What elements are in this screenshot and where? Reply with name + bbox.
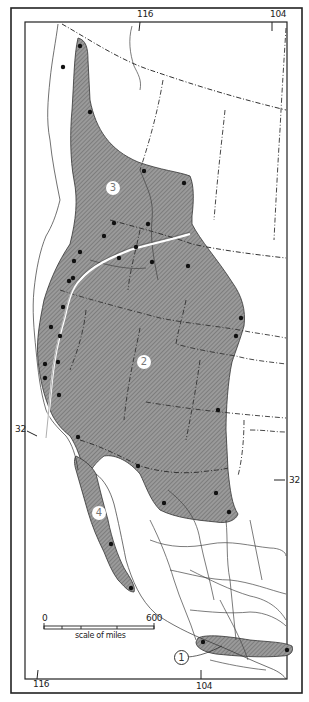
locality-dot <box>67 279 71 283</box>
locality-dot <box>72 259 76 263</box>
scale-end-label: 600 <box>146 614 162 623</box>
range-label-3: 3 <box>106 181 120 195</box>
locality-dot <box>227 510 231 514</box>
latitude-label: 32 <box>15 425 26 434</box>
locality-dot <box>71 276 75 280</box>
locality-dot <box>112 221 116 225</box>
locality-dot <box>43 362 47 366</box>
locality-dot <box>186 264 190 268</box>
locality-dot <box>109 542 113 546</box>
locality-dot <box>57 393 61 397</box>
locality-dot <box>88 110 92 114</box>
locality-dot <box>182 181 186 185</box>
locality-dot <box>102 234 106 238</box>
scale-bar <box>44 623 154 629</box>
locality-dot <box>142 169 146 173</box>
locality-dot <box>136 464 140 468</box>
locality-dot <box>43 376 47 380</box>
locality-dot <box>78 250 82 254</box>
range-label-2: 2 <box>137 355 151 369</box>
longitude-label: 116 <box>33 680 49 689</box>
longitude-label: 104 <box>270 10 286 19</box>
locality-dot <box>61 305 65 309</box>
locality-dot <box>49 325 53 329</box>
locality-dot <box>214 491 218 495</box>
latitude-label: 32 <box>289 476 300 485</box>
longitude-label: 116 <box>137 10 153 19</box>
locality-dot <box>76 435 80 439</box>
locality-dot <box>285 648 289 652</box>
locality-dot <box>58 334 62 338</box>
locality-dot <box>201 640 205 644</box>
scale-start-label: 0 <box>42 614 47 623</box>
locality-dot <box>78 44 82 48</box>
locality-dot <box>129 586 133 590</box>
scale-caption: scale of miles <box>75 632 126 640</box>
locality-dot <box>117 256 121 260</box>
locality-dot <box>239 316 243 320</box>
international-border <box>62 24 286 110</box>
locality-dot <box>146 222 150 226</box>
locality-dot <box>134 245 138 249</box>
distribution-map <box>0 0 309 702</box>
longitude-label: 104 <box>196 682 212 691</box>
locality-dot <box>216 408 220 412</box>
locality-dot <box>61 65 65 69</box>
locality-dot <box>56 360 60 364</box>
range-4-region <box>75 456 135 592</box>
locality-dot <box>234 334 238 338</box>
locality-dot <box>162 501 166 505</box>
range-label-4: 4 <box>92 506 106 520</box>
locality-dot <box>150 260 154 264</box>
range-label-1: 1 <box>174 650 189 665</box>
range-1-region <box>196 636 293 657</box>
